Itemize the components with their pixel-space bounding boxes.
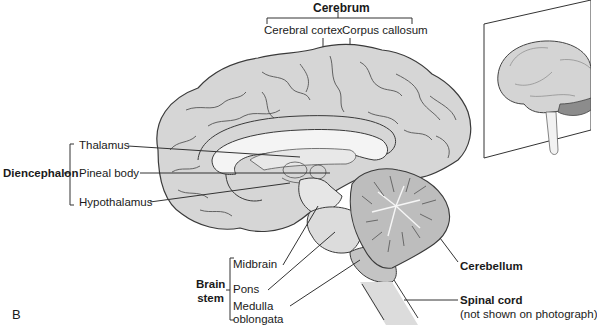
label-spinal-cord-note: (not shown on photograph) [460,308,597,321]
label-cerebral-cortex: Cerebral cortex [264,24,343,37]
label-brain-stem-2: stem [196,292,224,305]
label-hypothalamus: Hypothalamus [79,196,153,209]
label-cerebellum: Cerebellum [460,260,523,273]
label-medulla-2: oblongata [233,313,284,325]
label-thalamus: Thalamus [79,139,130,152]
label-pineal-body: Pineal body [79,167,139,180]
inset-brain-icon [484,0,591,158]
label-cerebrum: Cerebrum [313,2,370,15]
panel-label: B [12,307,21,322]
label-brain-stem-1: Brain [196,278,224,291]
label-spinal-cord: Spinal cord [460,294,523,307]
label-corpus-callosum: Corpus callosum [342,24,428,37]
label-medulla-1: Medulla [233,300,273,313]
label-midbrain: Midbrain [233,258,277,271]
label-diencephalon: Diencephalon [3,167,78,180]
label-pons: Pons [233,283,259,296]
